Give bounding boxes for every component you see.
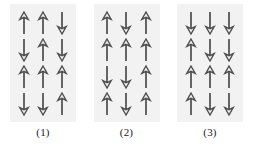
arrow-up-icon (139, 65, 153, 89)
panel-group-2: (2) (90, 4, 164, 138)
arrow-down-icon (119, 11, 133, 35)
arrow-up-icon (184, 38, 198, 62)
arrow-down-icon (203, 11, 217, 35)
arrow-up-icon (55, 65, 69, 89)
arrow-up-icon (139, 38, 153, 62)
spin-row (98, 10, 156, 36)
arrow-up-icon (139, 11, 153, 35)
arrow-up-icon (119, 38, 133, 62)
spin-row (181, 91, 239, 117)
arrow-up-icon (184, 65, 198, 89)
spin-row (14, 64, 72, 90)
arrow-up-icon (100, 38, 114, 62)
arrow-down-icon (222, 92, 236, 116)
arrow-up-icon (184, 92, 198, 116)
spin-row (98, 37, 156, 63)
arrow-down-icon (55, 11, 69, 35)
arrow-up-icon (36, 11, 50, 35)
arrow-down-icon (55, 38, 69, 62)
arrow-down-icon (17, 38, 31, 62)
panel-label-1: (1) (36, 127, 49, 138)
panel-group-3: (3) (173, 4, 247, 138)
arrow-down-icon (100, 65, 114, 89)
spin-panel-2 (94, 4, 160, 122)
arrow-up-icon (203, 65, 217, 89)
arrow-down-icon (184, 11, 198, 35)
arrow-up-icon (100, 92, 114, 116)
spin-row (14, 37, 72, 63)
spin-row (181, 64, 239, 90)
panel-label-3: (3) (203, 127, 216, 138)
panel-group-1: (1) (6, 4, 80, 138)
arrow-up-icon (100, 11, 114, 35)
arrow-down-icon (119, 65, 133, 89)
spin-panel-1 (10, 4, 76, 122)
panel-label-2: (2) (120, 127, 133, 138)
arrow-up-icon (55, 92, 69, 116)
arrow-up-icon (222, 65, 236, 89)
spin-panel-3 (177, 4, 243, 122)
arrow-down-icon (17, 92, 31, 116)
arrow-up-icon (36, 65, 50, 89)
arrow-down-icon (222, 11, 236, 35)
arrow-up-icon (17, 11, 31, 35)
arrow-up-icon (139, 92, 153, 116)
spin-row (14, 91, 72, 117)
spin-row (98, 91, 156, 117)
spin-row (181, 10, 239, 36)
arrow-down-icon (203, 38, 217, 62)
spin-row (14, 10, 72, 36)
spin-row (181, 37, 239, 63)
arrow-down-icon (36, 92, 50, 116)
arrow-down-icon (203, 92, 217, 116)
arrow-up-icon (36, 38, 50, 62)
arrow-up-icon (17, 65, 31, 89)
arrow-down-icon (119, 92, 133, 116)
arrow-down-icon (222, 38, 236, 62)
spin-row (98, 64, 156, 90)
spin-configuration-figure: (1) (2) (3) (0, 0, 253, 152)
